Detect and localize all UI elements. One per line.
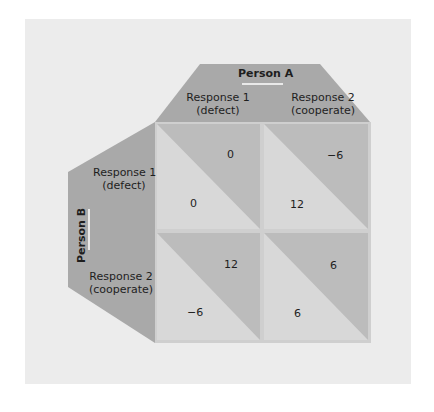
person-b-response-2: Response 2 (cooperate): [87, 270, 155, 296]
payoff-b-r1c2: 12: [290, 198, 304, 211]
person-a-response-1: Response 1 (defect): [183, 91, 253, 117]
person-b-title: Person B: [75, 208, 88, 263]
payoff-b-r2c1: −6: [187, 306, 203, 319]
payoff-b-r1c1: 0: [190, 197, 197, 210]
label-line: Response 2: [283, 91, 363, 104]
cell-r2-c2: [264, 233, 368, 340]
cell-r1-c1: [157, 124, 260, 229]
payoff-a-r1c2: −6: [327, 149, 343, 162]
label-line: Response 2: [87, 270, 155, 283]
cell-r2-c1: [157, 233, 260, 340]
payoff-a-r2c2: 6: [330, 259, 337, 272]
person-a-title: Person A: [238, 67, 293, 80]
label-line: (cooperate): [283, 104, 363, 117]
label-line: (defect): [93, 179, 155, 192]
person-b-response-1: Response 1 (defect): [93, 166, 155, 192]
label-line: Response 1: [93, 166, 155, 179]
cell-r1-c2: [264, 124, 368, 229]
payoff-matrix-graphic: [0, 0, 434, 412]
payoff-a-r2c1: 12: [224, 258, 238, 271]
label-line: (defect): [183, 104, 253, 117]
payoff-b-r2c2: 6: [294, 307, 301, 320]
person-a-response-2: Response 2 (cooperate): [283, 91, 363, 117]
payoff-a-r1c1: 0: [227, 148, 234, 161]
label-line: Response 1: [183, 91, 253, 104]
label-line: (cooperate): [87, 283, 155, 296]
